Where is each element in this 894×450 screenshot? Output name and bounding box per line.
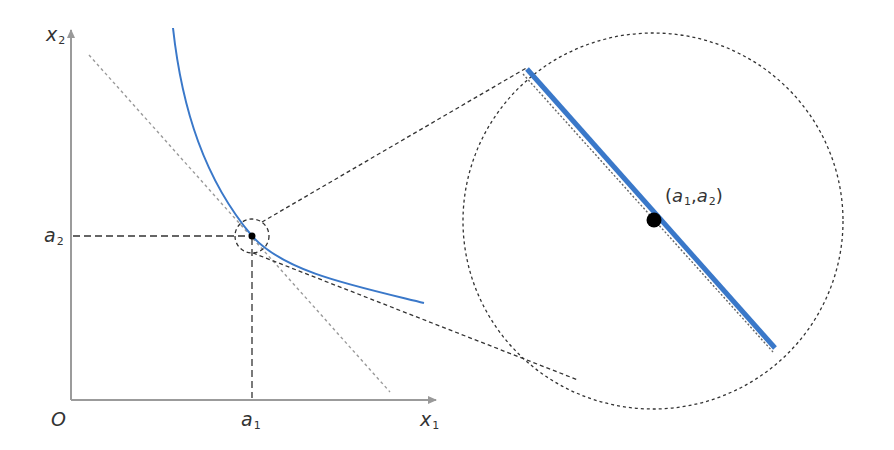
curve [173,28,424,303]
point-label-a1: a [672,185,683,206]
x-axis-label-base: x [420,408,431,430]
a1-sub: 1 [254,419,261,432]
a2-base: a [44,224,56,246]
magnified-tangent-line [523,74,773,352]
tangent-zoom-diagram [0,0,894,450]
a2-tick-label: a2 [44,226,64,247]
y-axis-label: x2 [46,25,65,46]
y-axis-label-sub: 2 [58,34,65,47]
tangent-line [89,55,390,392]
magnified-curve-segment [527,69,775,348]
a2-sub: 2 [57,235,64,248]
x-axis-label-sub: 1 [432,419,439,432]
origin-label: O [51,410,66,429]
point-label-a2-sub: 2 [709,195,716,208]
connector-bottom [253,253,578,380]
point-label-open-paren: ( [665,185,672,206]
y-axis-label-base: x [46,23,57,45]
point-a1-a2 [249,233,256,240]
connector-top [262,67,528,222]
point-label: (a1,a2) [665,187,723,207]
point-label-close-paren: ) [716,185,723,206]
x-axis-label: x1 [420,410,439,431]
point-label-a1-sub: 1 [684,195,691,208]
point-label-a2: a [697,185,708,206]
magnified-point-a1-a2 [647,213,662,228]
a1-tick-label: a1 [241,410,261,431]
a1-base: a [241,408,253,430]
